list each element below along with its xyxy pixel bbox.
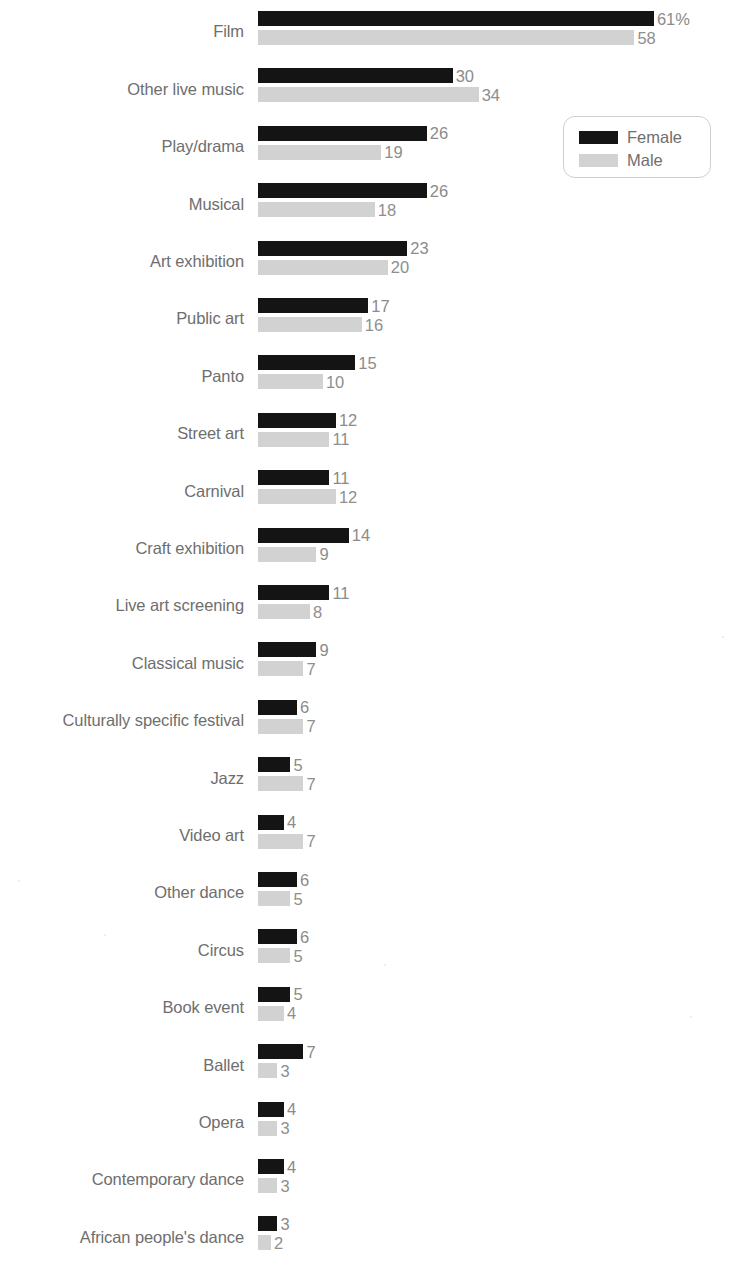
bar-male[interactable] bbox=[258, 948, 290, 963]
bar-female[interactable] bbox=[258, 11, 654, 26]
bar-female[interactable] bbox=[258, 987, 290, 1002]
bar-male[interactable] bbox=[258, 834, 303, 849]
bar-value-male: 7 bbox=[303, 717, 315, 736]
scan-speckle bbox=[18, 880, 20, 882]
bar-male[interactable] bbox=[258, 145, 381, 160]
chart-row: Carnival1112 bbox=[0, 464, 747, 517]
bar-male[interactable] bbox=[258, 1235, 271, 1250]
bar-male[interactable] bbox=[258, 317, 362, 332]
bar-female[interactable] bbox=[258, 298, 368, 313]
bar-male[interactable] bbox=[258, 547, 316, 562]
chart-row: Live art screening118 bbox=[0, 579, 747, 632]
category-label: Classical music bbox=[0, 636, 244, 689]
bar-value-female: 9 bbox=[316, 640, 328, 659]
bar-male[interactable] bbox=[258, 1063, 277, 1078]
bar-female[interactable] bbox=[258, 642, 316, 657]
bar-value-male: 5 bbox=[290, 889, 302, 908]
legend-swatch-female-icon bbox=[579, 131, 618, 144]
bar-group: 43 bbox=[258, 1096, 747, 1149]
bar-male[interactable] bbox=[258, 1178, 277, 1193]
bar-female[interactable] bbox=[258, 470, 329, 485]
bar-male[interactable] bbox=[258, 776, 303, 791]
bar-male[interactable] bbox=[258, 87, 479, 102]
chart-row: Video art47 bbox=[0, 809, 747, 862]
bar-male[interactable] bbox=[258, 489, 336, 504]
bar-group: 73 bbox=[258, 1038, 747, 1091]
bar-group: 32 bbox=[258, 1210, 747, 1263]
chart-row: Panto1510 bbox=[0, 349, 747, 402]
bar-value-female: 4 bbox=[284, 1100, 296, 1119]
bar-value-female: 11 bbox=[329, 468, 349, 487]
bar-group: 1510 bbox=[258, 349, 747, 402]
bar-male[interactable] bbox=[258, 374, 323, 389]
bar-male[interactable] bbox=[258, 30, 634, 45]
bar-female[interactable] bbox=[258, 1216, 277, 1231]
chart-row: Other live music3034 bbox=[0, 62, 747, 115]
bar-value-male: 58 bbox=[634, 28, 655, 47]
chart-row: Culturally specific festival67 bbox=[0, 694, 747, 747]
legend-item-male[interactable]: Male bbox=[579, 149, 710, 171]
bar-female[interactable] bbox=[258, 757, 290, 772]
bar-male[interactable] bbox=[258, 719, 303, 734]
category-label: Circus bbox=[0, 923, 244, 976]
category-label: Live art screening bbox=[0, 579, 244, 632]
bar-female[interactable] bbox=[258, 700, 297, 715]
bar-value-female: 5 bbox=[290, 755, 302, 774]
bar-male[interactable] bbox=[258, 432, 329, 447]
bar-group: 47 bbox=[258, 809, 747, 862]
bar-value-female: 12 bbox=[336, 411, 357, 430]
bar-female[interactable] bbox=[258, 1159, 284, 1174]
bar-female[interactable] bbox=[258, 355, 355, 370]
bar-male[interactable] bbox=[258, 260, 388, 275]
bar-value-male: 8 bbox=[310, 602, 322, 621]
bar-value-female: 4 bbox=[284, 1157, 296, 1176]
chart-row: Public art1716 bbox=[0, 292, 747, 345]
category-label: Craft exhibition bbox=[0, 522, 244, 575]
bar-female[interactable] bbox=[258, 929, 297, 944]
category-label: Musical bbox=[0, 177, 244, 230]
bar-male[interactable] bbox=[258, 1006, 284, 1021]
bar-group: 149 bbox=[258, 522, 747, 575]
bar-female[interactable] bbox=[258, 68, 453, 83]
bar-value-female: 4 bbox=[284, 813, 296, 832]
chart-row: Opera43 bbox=[0, 1096, 747, 1149]
category-label: Culturally specific festival bbox=[0, 694, 244, 747]
bar-male[interactable] bbox=[258, 1121, 277, 1136]
bar-value-female: 17 bbox=[368, 296, 389, 315]
bar-value-male: 7 bbox=[303, 832, 315, 851]
bar-female[interactable] bbox=[258, 126, 427, 141]
bar-female[interactable] bbox=[258, 585, 329, 600]
bar-value-male: 3 bbox=[277, 1061, 289, 1080]
bar-group: 61%58 bbox=[258, 5, 747, 58]
bar-value-male: 7 bbox=[303, 774, 315, 793]
bar-male[interactable] bbox=[258, 604, 310, 619]
bar-value-male: 5 bbox=[290, 946, 302, 965]
bar-value-female: 6 bbox=[297, 927, 309, 946]
scan-speckle bbox=[722, 636, 724, 638]
category-label: Jazz bbox=[0, 751, 244, 804]
bar-female[interactable] bbox=[258, 1044, 303, 1059]
bar-female[interactable] bbox=[258, 413, 336, 428]
bar-value-female: 26 bbox=[427, 181, 448, 200]
category-label: Video art bbox=[0, 809, 244, 862]
category-label: Other live music bbox=[0, 62, 244, 115]
bar-female[interactable] bbox=[258, 528, 349, 543]
category-label: Public art bbox=[0, 292, 244, 345]
bar-male[interactable] bbox=[258, 891, 290, 906]
bar-female[interactable] bbox=[258, 815, 284, 830]
bar-value-male: 12 bbox=[336, 487, 357, 506]
bar-male[interactable] bbox=[258, 661, 303, 676]
bar-female[interactable] bbox=[258, 1102, 284, 1117]
bar-female[interactable] bbox=[258, 183, 427, 198]
bar-chart: Film61%58Other live music3034Play/drama2… bbox=[0, 0, 747, 1271]
bar-value-female: 5 bbox=[290, 985, 302, 1004]
bar-female[interactable] bbox=[258, 872, 297, 887]
plot-area: Film61%58Other live music3034Play/drama2… bbox=[0, 0, 747, 1271]
bar-value-male: 4 bbox=[284, 1004, 296, 1023]
category-label: Panto bbox=[0, 349, 244, 402]
bar-male[interactable] bbox=[258, 202, 375, 217]
bar-female[interactable] bbox=[258, 241, 407, 256]
category-label: African people's dance bbox=[0, 1210, 244, 1263]
legend-item-female[interactable]: Female bbox=[579, 126, 710, 148]
chart-row: Book event54 bbox=[0, 981, 747, 1034]
